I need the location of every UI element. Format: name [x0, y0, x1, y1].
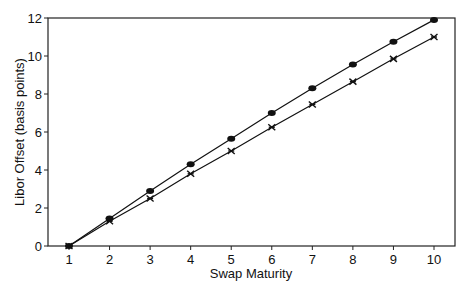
data-point	[268, 124, 275, 130]
data-point	[431, 34, 438, 40]
x-tick-label: 2	[106, 252, 113, 267]
y-tick-label: 12	[28, 11, 42, 26]
x-axis-ticks: 12345678910	[65, 246, 441, 267]
data-series	[65, 17, 438, 249]
y-tick-label: 4	[35, 163, 42, 178]
series-1	[65, 17, 438, 249]
y-tick-label: 8	[35, 87, 42, 102]
y-tick-label: 2	[35, 201, 42, 216]
x-tick-label: 8	[349, 252, 356, 267]
line-chart: 024681012 12345678910 Swap Maturity Libo…	[0, 0, 465, 288]
data-point	[349, 79, 356, 85]
x-tick-label: 10	[427, 252, 441, 267]
data-point	[390, 56, 397, 62]
y-tick-label: 6	[35, 125, 42, 140]
x-tick-label: 4	[187, 252, 194, 267]
data-point	[389, 39, 397, 45]
data-point	[228, 148, 235, 154]
data-point	[268, 110, 276, 116]
x-tick-label: 6	[268, 252, 275, 267]
data-point	[349, 62, 357, 68]
y-axis-label: Libor Offset (basis points)	[12, 58, 27, 206]
y-tick-label: 0	[35, 239, 42, 254]
data-point	[187, 161, 195, 167]
y-tick-label: 10	[28, 49, 42, 64]
data-point	[309, 101, 316, 107]
data-point	[430, 17, 438, 23]
data-point	[227, 136, 235, 142]
data-point	[187, 171, 194, 177]
data-point	[308, 85, 316, 91]
x-tick-label: 1	[65, 252, 72, 267]
y-axis-ticks: 024681012	[28, 11, 48, 254]
series-2	[66, 34, 438, 249]
x-tick-label: 3	[146, 252, 153, 267]
data-point	[147, 196, 154, 202]
x-tick-label: 5	[228, 252, 235, 267]
x-tick-label: 9	[390, 252, 397, 267]
data-point	[146, 188, 154, 194]
x-tick-label: 7	[309, 252, 316, 267]
x-axis-label: Swap Maturity	[210, 266, 293, 281]
plot-frame	[48, 18, 455, 246]
